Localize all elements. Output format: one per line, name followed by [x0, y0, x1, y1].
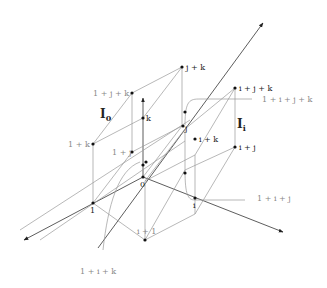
label-one-plus-j: 1 + j	[112, 148, 131, 157]
label-i-plus-k: i + k	[199, 135, 218, 144]
axis-one	[24, 177, 143, 240]
cube-Ii	[93, 88, 235, 240]
label-i: i	[193, 201, 196, 210]
label-origin: 0	[140, 180, 145, 189]
label-one-plus-i: i + 1	[137, 227, 156, 236]
label-one-plus-k: 1 + k	[68, 140, 90, 149]
vertex-labels: 0 1 i i + 1 1 + j 1 + k k 1 + j + k j + …	[68, 63, 312, 276]
label-i-plus-j: i + j	[239, 143, 256, 152]
label-region-Ii: Ii	[237, 117, 246, 133]
cube-I0	[93, 67, 182, 203]
axis-i	[143, 177, 283, 232]
quaternion-cube-diagram: 0 1 i i + 1 1 + j 1 + k k 1 + j + k j + …	[0, 0, 327, 288]
label-one-plus-j-plus-k: 1 + j + k	[93, 89, 129, 98]
label-i-plus-j-plus-k: i + j + k	[239, 84, 273, 93]
axes	[24, 23, 283, 248]
label-j: j	[184, 124, 187, 133]
label-one-plus-i-plus-j: 1 + i + j	[257, 194, 291, 203]
label-region-I0: I0	[100, 107, 112, 123]
label-one-plus-i-plus-j-plus-k: 1 + i + j + k	[262, 95, 312, 104]
label-one-plus-i-plus-k: 1 + i + k	[80, 267, 116, 276]
label-k: k	[146, 114, 151, 123]
label-j-plus-k: j + k	[185, 63, 205, 72]
label-one: 1	[90, 206, 95, 215]
